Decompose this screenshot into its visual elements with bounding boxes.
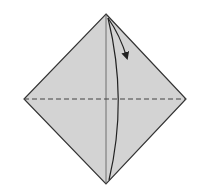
origami-diagram bbox=[0, 0, 198, 195]
diagram-canvas bbox=[0, 0, 198, 195]
